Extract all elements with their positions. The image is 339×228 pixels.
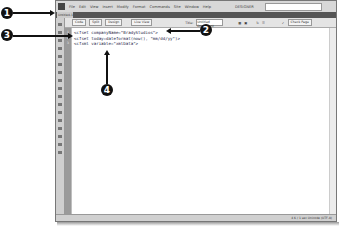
callout-1: 1	[1, 7, 13, 19]
line-numbers-icon[interactable]	[58, 71, 62, 74]
callout-4: 4	[101, 84, 113, 96]
vertical-scrollbar[interactable]	[329, 28, 336, 215]
check-page-button[interactable]: Check Page	[288, 19, 313, 26]
menu-view[interactable]: View	[90, 5, 99, 9]
code-line[interactable]: <cfxml variable="xmlData">	[74, 41, 328, 47]
menu-insert[interactable]: Insert	[103, 5, 113, 9]
line-number: 3	[65, 41, 71, 47]
code-editor[interactable]: <cfset companyName="BradyStudios"> <cfse…	[72, 28, 330, 215]
refresh-icon[interactable]: ↻	[256, 21, 259, 25]
syntax-error-icon[interactable]	[58, 87, 62, 90]
callout-4-arrow	[106, 54, 108, 84]
validate-icon[interactable]: ✓	[282, 21, 285, 25]
preview-icon[interactable]: ▣	[244, 21, 247, 25]
highlight-invalid-icon[interactable]	[58, 79, 62, 82]
callout-3: 3	[1, 29, 13, 41]
indent-icon[interactable]	[58, 135, 62, 138]
design-view-button[interactable]: Design	[105, 19, 122, 26]
dreamweaver-window: File Edit View Insert Modify Format Comm…	[55, 0, 337, 222]
workspace-switcher[interactable]: DESIGNER	[235, 5, 254, 9]
menu-format[interactable]: Format	[133, 5, 146, 9]
menu-edit[interactable]: Edit	[79, 5, 86, 9]
format-source-icon[interactable]	[58, 151, 62, 154]
callout-2: 2	[200, 24, 212, 36]
menu-modify[interactable]: Modify	[117, 5, 129, 9]
split-view-button[interactable]: Split	[89, 19, 102, 26]
search-input[interactable]	[265, 3, 322, 11]
collapse-tag-icon[interactable]	[58, 31, 62, 34]
view-options-icon[interactable]: ☰	[262, 21, 265, 25]
status-bar: 4 K / 1 sec Unicode (UTF-8)	[56, 214, 336, 221]
select-parent-tag-icon[interactable]	[58, 55, 62, 58]
window-shadow	[57, 222, 339, 226]
menu-window[interactable]: Window	[185, 5, 199, 9]
menu-help[interactable]: Help	[203, 5, 211, 9]
remove-comment-icon[interactable]	[58, 103, 62, 106]
menu-site[interactable]: Site	[174, 5, 181, 9]
document-toolbar: Code Split Design Live View Title: Untit…	[56, 18, 336, 28]
line-number-gutter: 1 2 3	[65, 28, 71, 215]
move-css-icon[interactable]	[58, 127, 62, 130]
callout-1-arrowhead-icon	[50, 10, 55, 16]
callout-2-arrowhead-icon	[166, 28, 171, 34]
file-management-icon[interactable]: ▦	[238, 21, 241, 25]
app-logo-icon	[58, 3, 65, 10]
callout-3-arrowhead-icon	[68, 33, 73, 39]
title-label: Title:	[185, 21, 193, 25]
live-view-button[interactable]: Live View	[131, 19, 152, 26]
wrap-tag-icon[interactable]	[58, 111, 62, 114]
expand-all-icon[interactable]	[58, 47, 62, 50]
menu-commands[interactable]: Commands	[149, 5, 169, 9]
callout-3-arrow	[13, 35, 69, 37]
callout-1-arrow	[13, 12, 51, 14]
coding-toolbar	[56, 18, 65, 215]
callout-4-arrowhead-icon	[104, 50, 110, 55]
apply-comment-icon[interactable]	[58, 95, 62, 98]
balance-braces-icon[interactable]	[58, 63, 62, 66]
recent-snippets-icon[interactable]	[58, 119, 62, 122]
collapse-selection-icon[interactable]	[58, 39, 62, 42]
code-view-button[interactable]: Code	[72, 19, 86, 26]
outdent-icon[interactable]	[58, 143, 62, 146]
open-documents-icon[interactable]	[58, 23, 62, 26]
menu-bar: File Edit View Insert Modify Format Comm…	[56, 1, 336, 12]
menu-file[interactable]: File	[69, 5, 75, 9]
callout-2-arrow	[170, 30, 200, 32]
